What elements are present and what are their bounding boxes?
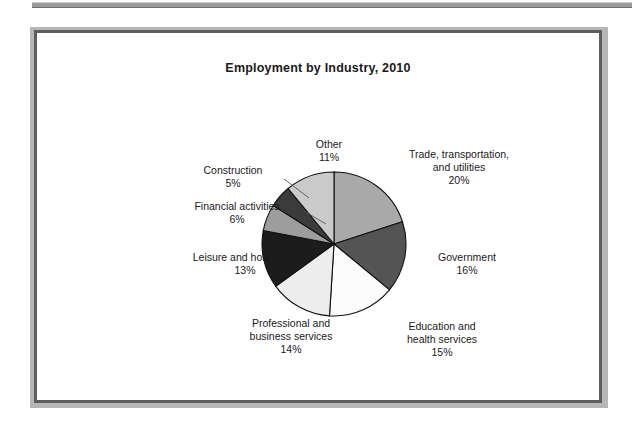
pie-slice-label-line: 6% [229, 213, 244, 225]
pie-chart-stage: Trade, transportation,and utilities20%Go… [37, 33, 605, 406]
pie-slice-label-line: Construction [204, 164, 263, 176]
pie-slice-label-line: and utilities [433, 161, 486, 173]
pie-slice-label-line: 16% [456, 264, 477, 276]
top-divider-rule [32, 2, 632, 8]
pie-slice-label-line: health services [407, 333, 477, 345]
pie-slice-label-line: business services [250, 330, 333, 342]
pie-slice-label: Construction5% [204, 164, 263, 189]
pie-slice-label-line: Financial activities [194, 200, 279, 212]
pie-slice-label-line: Education and [408, 320, 475, 332]
pie-slice-label-line: 15% [431, 346, 452, 358]
pie-slice-label-line: Trade, transportation, [409, 148, 509, 160]
pie-slice-label: Education andhealth services15% [407, 320, 477, 358]
pie-slice-label-line: Other [316, 138, 343, 150]
pie-slice-label-line: Government [438, 251, 496, 263]
pie-slice-label-line: 20% [448, 174, 469, 186]
pie-slice-label-line: 11% [319, 151, 339, 163]
pie-slice-label: Other11% [316, 138, 343, 163]
pie-slice-label-line: Leisure and hospitality [193, 251, 298, 263]
pie-slice-label-line: 5% [225, 177, 240, 189]
pie-slice-label-line: Professional and [252, 317, 330, 329]
pie-slice-label: Trade, transportation,and utilities20% [409, 148, 509, 186]
pie-slice-label-line: 14% [280, 343, 301, 355]
pie-slice-label: Government16% [438, 251, 496, 276]
chart-figure-frame: Employment by Industry, 2010 Trade, tran… [34, 30, 602, 403]
pie-slice-label-line: 13% [234, 264, 255, 276]
pie-slice-label: Professional andbusiness services14% [250, 317, 333, 355]
pie-slice-group [262, 172, 406, 316]
pie-chart-svg: Trade, transportation,and utilities20%Go… [37, 33, 605, 406]
